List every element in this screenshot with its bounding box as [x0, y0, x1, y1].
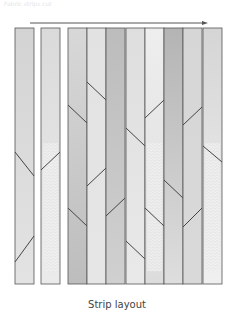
- fabric-strip: [41, 28, 60, 284]
- fabric-strip: [145, 28, 164, 284]
- fabric-strip: [106, 28, 125, 284]
- fabric-strip: [183, 28, 202, 284]
- fabric-strip: [87, 28, 106, 284]
- fabric-strip: [68, 28, 87, 284]
- fabric-strip: [164, 28, 183, 284]
- fabric-strip: [203, 28, 222, 284]
- fabric-strip: [15, 28, 34, 284]
- fabric-strip: [126, 28, 145, 284]
- direction-arrow: [30, 21, 208, 25]
- diagram-caption: Strip layout: [0, 299, 234, 310]
- strip-layout-diagram: [0, 0, 234, 295]
